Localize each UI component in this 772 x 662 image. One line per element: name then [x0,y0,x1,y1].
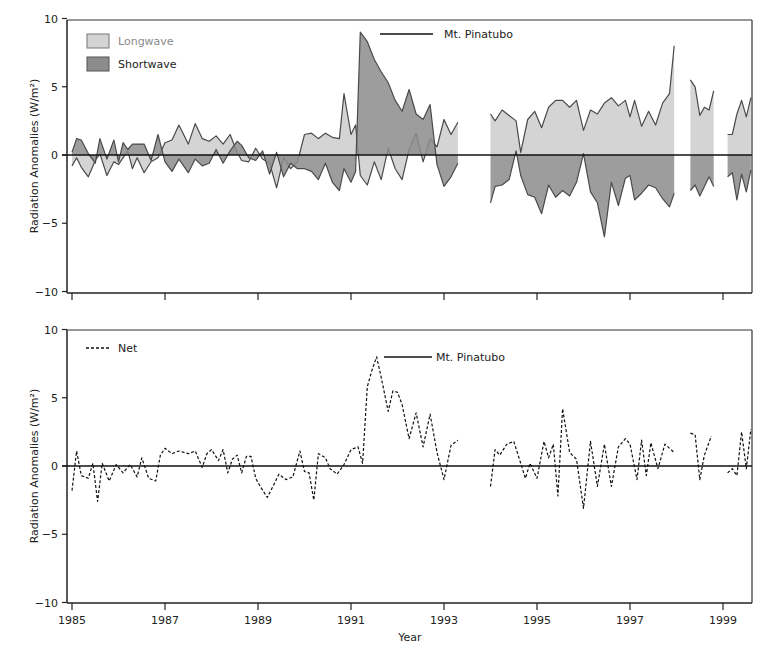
legend-net-label: Net [118,342,138,355]
top-pinatubo-label: Mt. Pinatubo [444,28,513,41]
y-tick-label: −5 [42,217,58,230]
longwave-area [491,46,675,155]
top-x-ticks [72,293,723,300]
legend-shortwave-label: Shortwave [118,58,177,71]
net-line [728,429,751,476]
x-axis-title: Year [397,631,422,644]
bottom-plot-data [72,357,751,509]
legend-longwave-label: Longwave [118,35,174,48]
top-y-axis-title: Radiation Anomalies (W/m²) [28,79,41,234]
y-tick-label: 10 [44,13,58,26]
x-tick-label: 1991 [337,614,365,627]
x-tick-label: 1987 [151,614,179,627]
y-tick-label: 5 [51,392,58,405]
x-tick-label: 1989 [244,614,272,627]
top-panel: −10−50510 Radiation Anomalies (W/m²) Lon… [28,13,752,301]
x-tick-label: 1993 [430,614,458,627]
net-line [72,357,458,502]
bottom-y-axis-title: Radiation Anomalies (W/m²) [28,389,41,544]
x-tick-label: 1995 [523,614,551,627]
shortwave-swatch [87,57,109,71]
x-tick-label: 1997 [616,614,644,627]
net-line [690,433,711,479]
radiation-anomalies-figure: −10−50510 Radiation Anomalies (W/m²) Lon… [0,0,772,662]
shortwave-area [728,155,751,200]
y-tick-label: 0 [51,460,58,473]
net-line [491,409,675,509]
x-tick-label: 1999 [709,614,737,627]
y-tick-label: −10 [35,286,58,299]
bottom-pinatubo-label: Mt. Pinatubo [436,351,505,364]
y-tick-label: 10 [44,324,58,337]
longwave-swatch [87,34,109,48]
longwave-area [690,80,713,155]
top-legend: Longwave Shortwave [87,34,177,71]
y-tick-label: 0 [51,149,58,162]
x-tick-label: 1985 [58,614,86,627]
y-tick-label: −5 [42,528,58,541]
y-tick-label: 5 [51,81,58,94]
bottom-legend: Net [86,342,138,355]
y-tick-label: −10 [35,597,58,610]
bottom-x-ticks: 19851987198919911993199519971999 [58,603,737,627]
shortwave-area [690,155,713,196]
bottom-panel: −10−50510 198519871989199119931995199719… [28,324,752,645]
